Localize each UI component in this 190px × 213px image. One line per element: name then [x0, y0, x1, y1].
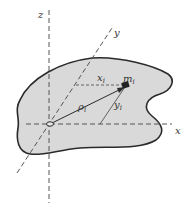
- diagram-canvas: z y x mi xi yi ρi: [0, 0, 190, 213]
- lamina-moment-of-inertia-figure: z y x mi xi yi ρi: [0, 0, 190, 213]
- origin-marker: [47, 122, 54, 126]
- y-axis-label: y: [113, 27, 120, 38]
- z-axis-label: z: [37, 9, 44, 20]
- x-axis-label: x: [175, 125, 181, 136]
- lamina-shape: [17, 58, 172, 155]
